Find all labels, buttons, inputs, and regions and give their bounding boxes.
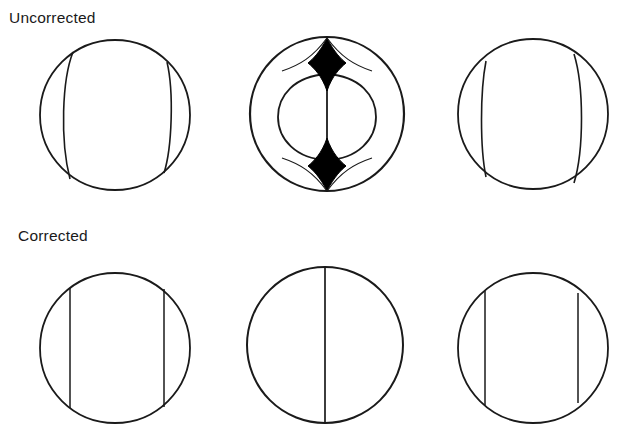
row-label-corrected: Corrected xyxy=(18,228,88,244)
corrected-panel-1 xyxy=(40,273,190,423)
right-curved-edge xyxy=(574,54,582,183)
panel-circle-outline xyxy=(458,273,608,423)
bottom-astroid-fill xyxy=(308,138,346,191)
panel-circle-outline xyxy=(458,39,608,189)
corrected-panel-2 xyxy=(247,267,403,423)
uncorrected-panel-2 xyxy=(250,37,404,191)
panel-circle-outline xyxy=(40,273,190,423)
inner-oval-left-half xyxy=(278,74,327,160)
lens-diagram-svg xyxy=(0,0,621,441)
corrected-panel-3 xyxy=(458,273,608,423)
figure-canvas: Uncorrected Corrected xyxy=(0,0,621,441)
left-curved-edge xyxy=(482,61,487,177)
row-label-uncorrected: Uncorrected xyxy=(9,10,96,26)
uncorrected-panel-1 xyxy=(40,40,190,190)
inner-oval-right-half xyxy=(327,74,376,160)
top-astroid-fill xyxy=(308,38,346,91)
uncorrected-panel-3 xyxy=(458,39,608,189)
left-curved-edge xyxy=(64,52,73,179)
right-curved-edge xyxy=(164,62,171,173)
